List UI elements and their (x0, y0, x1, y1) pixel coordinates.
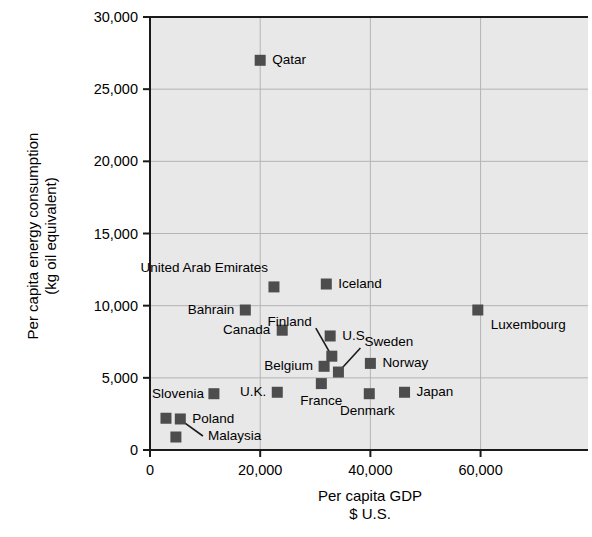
data-point-malaysia[interactable] (170, 432, 181, 443)
y-tick-label: 10,000 (94, 298, 138, 314)
data-point-norway[interactable] (365, 358, 376, 369)
scatter-chart: Per capita energy consumption (kg oil eq… (0, 0, 592, 537)
data-point-finland[interactable] (326, 351, 337, 362)
point-label-luxembourg: Luxembourg (491, 318, 566, 332)
chart-canvas (0, 0, 592, 537)
y-tick-label: 20,000 (94, 153, 138, 169)
x-tick-label: 20,000 (238, 462, 282, 478)
data-point-sweden[interactable] (333, 367, 344, 378)
point-label-united-arab-emirates: United Arab Emirates (140, 261, 268, 275)
data-point-bahrain[interactable] (240, 304, 251, 315)
y-tick-label: 30,000 (94, 9, 138, 25)
y-tick-label: 15,000 (94, 226, 138, 242)
data-point-slovakia[interactable] (160, 413, 171, 424)
point-label-qatar: Qatar (272, 53, 306, 67)
x-tick-label: 0 (146, 462, 154, 478)
point-label-bahrain: Bahrain (188, 303, 235, 317)
point-label-sweden: Sweden (364, 335, 413, 349)
x-axis-title: Per capita GDP $ U.S. (150, 487, 590, 523)
point-label-belgium: Belgium (264, 359, 313, 373)
y-tick-label: 5,000 (102, 370, 138, 386)
point-label-malaysia: Malaysia (208, 429, 261, 443)
point-label-poland: Poland (192, 412, 234, 426)
point-label-iceland: Iceland (338, 277, 382, 291)
data-point-luxembourg[interactable] (472, 304, 483, 315)
y-tick-label: 0 (130, 442, 138, 458)
data-point-qatar[interactable] (255, 55, 266, 66)
data-point-u-s[interactable] (325, 330, 336, 341)
point-label-slovenia: Slovenia (152, 387, 204, 401)
point-label-norway: Norway (382, 356, 428, 370)
data-point-iceland[interactable] (321, 279, 332, 290)
data-point-japan[interactable] (399, 387, 410, 398)
y-axis-title: Per capita energy consumption (kg oil eq… (24, 76, 60, 396)
data-point-poland[interactable] (175, 413, 186, 424)
x-tick-label: 60,000 (458, 462, 502, 478)
data-point-slovenia[interactable] (208, 388, 219, 399)
y-tick-label: 25,000 (94, 81, 138, 97)
point-label-japan: Japan (417, 385, 454, 399)
x-tick-label: 40,000 (348, 462, 392, 478)
point-label-france: France (300, 394, 342, 408)
point-label-denmark: Denmark (340, 404, 395, 418)
data-point-united-arab-emirates[interactable] (268, 281, 279, 292)
point-label-u-k: U.K. (240, 385, 266, 399)
point-label-canada: Canada (223, 323, 270, 337)
point-label-finland: Finland (268, 315, 312, 329)
data-point-belgium[interactable] (319, 361, 330, 372)
data-point-france[interactable] (316, 378, 327, 389)
data-point-denmark[interactable] (364, 388, 375, 399)
data-point-u-k[interactable] (272, 387, 283, 398)
